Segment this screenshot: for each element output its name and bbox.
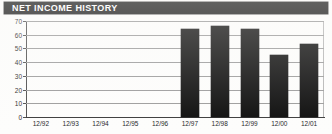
y-tick-label: 60 xyxy=(4,32,22,39)
plot-area xyxy=(26,21,324,117)
y-tick-label: 40 xyxy=(4,59,22,66)
x-tick-label: 12/93 xyxy=(63,120,79,128)
x-tick-label: 12/01 xyxy=(301,120,317,128)
bar-12-01 xyxy=(300,44,318,117)
x-tick-label: 12/97 xyxy=(182,120,198,128)
x-tick-label: 12/94 xyxy=(92,120,108,128)
net-income-history-chart-figure: NET INCOME HISTORY 010203040506070 12/92… xyxy=(0,0,332,134)
y-tick-label: 50 xyxy=(4,45,22,52)
bar-12-98 xyxy=(211,26,229,117)
bar-12-99 xyxy=(241,29,259,117)
x-axis-labels: 12/9212/9312/9412/9512/9612/9712/9812/99… xyxy=(26,120,324,132)
y-tick-label: 20 xyxy=(4,87,22,94)
x-tick-label: 12/00 xyxy=(271,120,287,128)
x-tick-label: 12/98 xyxy=(212,120,228,128)
x-tick-label: 12/96 xyxy=(152,120,168,128)
gridline-50 xyxy=(26,48,324,49)
chart-title-bar: NET INCOME HISTORY xyxy=(4,2,328,14)
y-tick-label: 10 xyxy=(4,100,22,107)
y-tick-label: 70 xyxy=(4,18,22,25)
bar-12-97 xyxy=(181,29,199,117)
y-tick-label: 30 xyxy=(4,73,22,80)
gridline-60 xyxy=(26,35,324,36)
x-tick-label: 12/95 xyxy=(122,120,138,128)
bar-12-00 xyxy=(270,55,288,117)
gridline-0 xyxy=(26,117,324,118)
gridline-70 xyxy=(26,21,324,22)
y-tick-label: 0 xyxy=(4,114,22,121)
x-tick-label: 12/99 xyxy=(241,120,257,128)
x-tick-label: 12/92 xyxy=(33,120,49,128)
y-axis-labels: 010203040506070 xyxy=(0,21,22,117)
page-title: NET INCOME HISTORY xyxy=(12,3,118,14)
